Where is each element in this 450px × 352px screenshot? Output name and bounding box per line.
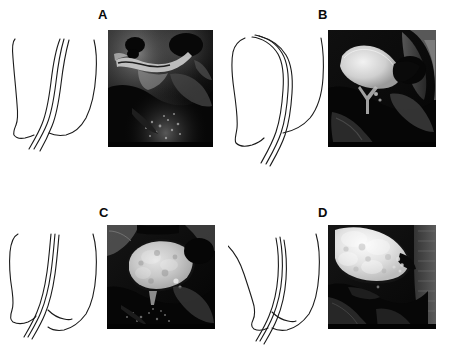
panel-a: A xyxy=(0,0,225,176)
panel-label-b: B xyxy=(318,8,327,21)
panel-label-d: D xyxy=(318,206,327,219)
panel-label-c: C xyxy=(99,206,108,219)
panel-c: C xyxy=(0,176,225,352)
mri-image-b xyxy=(328,30,436,147)
mri-image-d xyxy=(328,225,436,329)
schematic-line-drawing-b xyxy=(230,32,326,172)
panel-b: B xyxy=(225,0,450,176)
schematic-line-drawing-c xyxy=(6,230,102,350)
schematic-line-drawing-d xyxy=(228,230,324,350)
schematic-line-drawing-a xyxy=(6,32,102,162)
mri-image-a xyxy=(108,30,213,147)
panel-d: D xyxy=(225,176,450,352)
mri-image-c xyxy=(107,225,215,329)
figure-plate: A xyxy=(0,0,450,352)
panel-label-a: A xyxy=(98,8,107,21)
